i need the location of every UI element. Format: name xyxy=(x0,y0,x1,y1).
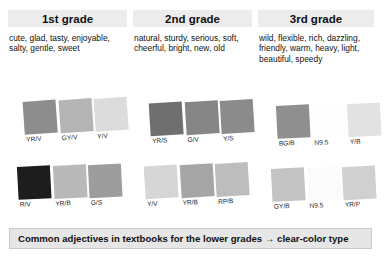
swatch-label: RP/B xyxy=(218,197,234,205)
color-swatch xyxy=(342,166,377,201)
swatch-label: GY/V xyxy=(61,133,77,141)
swatch-label: R/V xyxy=(20,200,31,208)
grade-heading-row: 1st grade 2nd grade 3rd grade xyxy=(0,10,380,28)
swatch-group: YR/VGY/VY/V xyxy=(23,94,136,148)
swatch-label: Y/V xyxy=(97,132,108,140)
color-swatch xyxy=(271,167,306,202)
grade-heading-2nd: 2nd grade xyxy=(133,10,252,27)
color-swatch xyxy=(220,99,255,134)
swatch-label: YR/V xyxy=(26,135,42,143)
color-swatch xyxy=(276,104,311,139)
color-swatch xyxy=(215,162,250,197)
swatch-label: Y/V xyxy=(147,200,158,208)
swatch-group: R/VYR/BG/S xyxy=(17,161,129,213)
swatch-label: Y/S xyxy=(223,135,234,143)
color-swatch xyxy=(94,97,129,132)
swatch-group: GY/BN9.5YR/P xyxy=(271,163,383,215)
swatch-group: BG/BN9.5Y/B xyxy=(276,100,386,152)
color-swatch xyxy=(306,167,341,202)
adjective-line: salty, gentle, sweet xyxy=(9,43,131,53)
adjective-line: cheerful, bright, new, old xyxy=(134,43,256,53)
swatch-group: YR/SG/VY/S xyxy=(149,97,262,150)
swatch-label: G/S xyxy=(91,199,103,207)
color-swatch xyxy=(17,165,52,200)
swatch-label: YR/B xyxy=(182,198,198,206)
adjective-list-2nd: natural, sturdy, serious, soft, cheerful… xyxy=(134,33,256,54)
swatch-label: GY/B xyxy=(274,202,290,210)
color-swatch xyxy=(184,100,219,135)
conclusion-text: Common adjectives in textbooks for the l… xyxy=(18,229,349,248)
swatch-label: N9.5 xyxy=(309,201,323,209)
swatch-label: YR/B xyxy=(55,199,71,207)
adjective-line: wild, flexible, rich, dazzling, xyxy=(259,33,379,43)
swatch-label: YR/S xyxy=(152,136,168,144)
adjective-line: natural, sturdy, serious, soft, xyxy=(134,33,256,43)
adjective-line: friendly, warm, heavy, light, xyxy=(259,43,379,53)
grade-heading-3rd: 3rd grade xyxy=(258,10,374,27)
adjective-line: beautiful, speedy xyxy=(259,54,379,64)
swatch-group: Y/VYR/BRP/B xyxy=(144,160,257,213)
color-swatch xyxy=(311,104,346,139)
grade-heading-1st: 1st grade xyxy=(8,10,127,27)
color-swatch xyxy=(347,103,382,138)
swatch-label: G/V xyxy=(187,136,199,144)
color-swatch xyxy=(23,100,58,135)
color-swatch xyxy=(58,98,93,133)
swatch-label: N9.5 xyxy=(314,138,328,146)
color-swatch xyxy=(144,164,179,199)
color-swatch xyxy=(88,164,123,199)
adjective-list-3rd: wild, flexible, rich, dazzling, friendly… xyxy=(259,33,379,64)
swatch-label: Y/B xyxy=(350,138,361,146)
color-swatch xyxy=(149,101,184,136)
color-swatch xyxy=(179,163,214,198)
adjective-line: cute, glad, tasty, enjoyable, xyxy=(9,33,131,43)
swatch-label: YR/P xyxy=(345,201,361,209)
conclusion-bar: Common adjectives in textbooks for the l… xyxy=(9,228,372,249)
color-swatch xyxy=(52,165,87,200)
swatch-label: BG/B xyxy=(279,139,295,147)
adjective-list-1st: cute, glad, tasty, enjoyable, salty, gen… xyxy=(9,33,131,54)
